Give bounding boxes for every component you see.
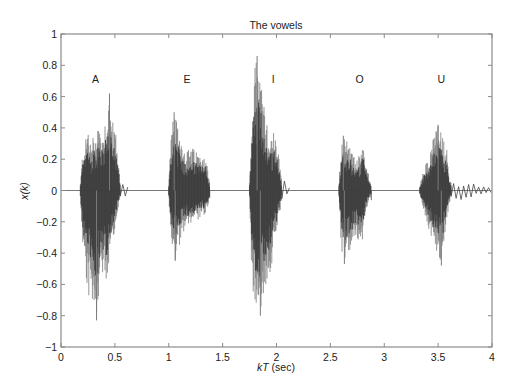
waveform-a: [80, 93, 127, 320]
x-tick-label: 0.5: [108, 351, 123, 363]
y-tick-label: −1: [45, 341, 57, 353]
y-tick-label: 0: [51, 185, 57, 197]
x-tick-label: 1.5: [215, 351, 230, 363]
y-tick-label: 0.6: [42, 91, 57, 103]
x-tick-label: 0: [58, 351, 64, 363]
y-tick-label: 0.8: [42, 59, 57, 71]
waveform-i: [250, 56, 290, 316]
vowel-label-e: E: [184, 73, 191, 85]
x-tick-label: 4: [489, 351, 495, 363]
y-tick-label: −0.6: [36, 278, 57, 290]
waveform-o: [339, 136, 371, 264]
y-tick-label: −0.2: [36, 216, 57, 228]
y-tick-label: 0.4: [42, 122, 57, 134]
vowel-label-a: A: [92, 73, 99, 85]
vowel-label-o: O: [355, 73, 363, 85]
waveform-series: [61, 56, 492, 320]
waveform-e: [169, 112, 210, 261]
y-axis-label: x(k): [18, 182, 30, 201]
vowels-waveform-chart: 00.511.522.533.54 −1−0.8−0.6−0.4−0.200.2…: [0, 0, 516, 390]
chart-title: The vowels: [249, 19, 302, 31]
vowel-annotations: AEIOU: [92, 73, 445, 85]
y-tick-label: 0.2: [42, 153, 57, 165]
y-tick-label: 1: [51, 28, 57, 40]
x-axis-label: kT (sec): [257, 361, 295, 373]
x-tick-label: 1: [166, 351, 172, 363]
x-tick-label: 3: [381, 351, 387, 363]
vowel-label-u: U: [438, 73, 446, 85]
waveform-u: [420, 125, 491, 266]
vowel-label-i: I: [272, 73, 275, 85]
x-tick-label: 3.5: [431, 351, 446, 363]
x-axis-label-unit: (sec): [269, 361, 295, 373]
x-tick-label: 2.5: [323, 351, 338, 363]
y-tick-label: −0.8: [36, 310, 57, 322]
y-tick-label: −0.4: [36, 247, 57, 259]
